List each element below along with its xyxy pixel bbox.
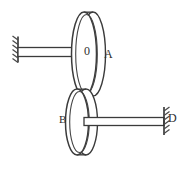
- disc-a-hub-center-label: 0: [84, 45, 90, 57]
- disc-b-label: B: [59, 114, 66, 125]
- diagram-svg: [0, 0, 185, 170]
- disc-a-label: A: [104, 48, 113, 60]
- shaft-right-body: [84, 118, 164, 126]
- support-left-hatch-marks: [13, 36, 19, 63]
- diagram-canvas: 0 A B D: [0, 0, 185, 170]
- support-right-label: D: [168, 112, 177, 124]
- support-left: [13, 36, 19, 63]
- shaft-right: [84, 118, 164, 126]
